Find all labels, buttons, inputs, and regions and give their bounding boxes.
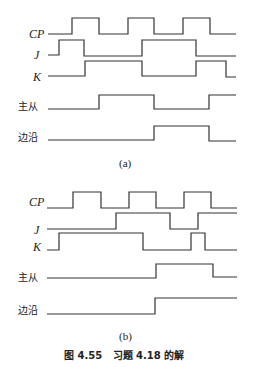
waveform-a-cp: [48, 18, 236, 34]
waveforms: [0, 0, 254, 367]
waveform-a-k: [48, 61, 236, 77]
waveform-b-k: [47, 233, 237, 250]
waveform-b-master-slave: [47, 264, 237, 278]
waveform-a-edge: [48, 126, 236, 141]
waveform-b-j: [47, 213, 237, 229]
waveform-b-cp: [47, 192, 237, 208]
waveform-a-master-slave: [48, 95, 236, 109]
waveform-b-edge: [47, 298, 237, 314]
waveform-a-j: [48, 40, 236, 56]
